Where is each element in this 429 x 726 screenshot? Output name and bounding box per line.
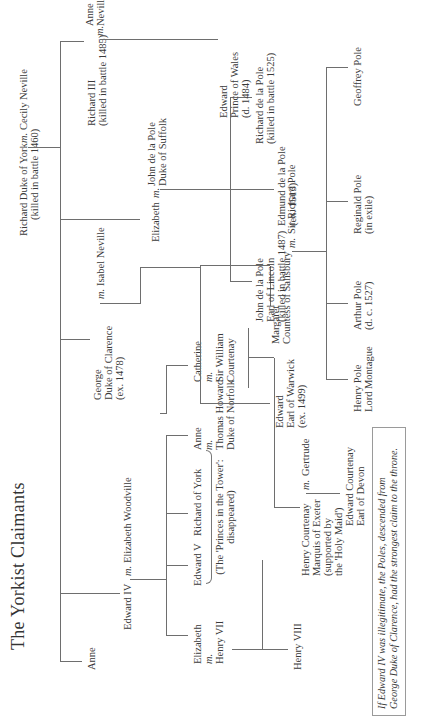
marriage-marker: m. [95,289,106,299]
title: Prince of Wales [229,52,240,118]
connector [60,219,140,220]
connector [60,661,82,662]
marriage-marker: m. [203,333,214,382]
connector [60,41,84,42]
brace [206,450,212,584]
connector [262,649,288,650]
name: Arthur Pole [352,281,363,330]
connector [326,303,348,304]
title: Lord Montague [363,346,374,412]
person-edward-courtenay: Edward Courtenay Earl of Devon [344,447,366,526]
person-john-duke-of-suffolk: John de la Pole Duke of Suffolk [146,118,168,186]
note: (ex. 1513) [287,146,298,226]
person-george-duke-of-clarence: George Duke of Clarence (ex. 1478) [92,326,125,400]
name: Edmund de la Pole [276,146,287,226]
name: Henry Pole [352,346,363,412]
connector [248,357,274,358]
person-anne-howard: Anne m. Thomas Howard Duke of Norfolk [192,380,236,450]
note: (d. 1484) [240,52,251,118]
note-line: (The 'Princes in the Tower': [214,452,225,582]
connector [326,68,327,380]
spouse-title: Duke of Norfolk [225,380,236,450]
connector [140,267,200,268]
name: Richard de la Pole [254,53,265,144]
person-richard-duke-of-york: Richard Duke of York (killed in battle 1… [18,129,40,236]
connector [232,649,262,650]
person-elizabeth-woodville: Elizabeth Woodville [122,477,133,563]
marriage-marker: m. [300,480,311,490]
connector [306,493,340,494]
spouse: Henry VII [214,621,225,664]
connector [292,251,326,252]
connector [230,98,231,282]
connector [130,579,166,580]
princes-in-tower-note: (The 'Princes in the Tower': disappeared… [214,452,236,582]
person-geoffrey-pole: Geoffrey Pole [352,47,363,106]
connector [100,303,140,304]
connector [60,339,90,340]
note-line: disappeared) [225,452,236,582]
connector [200,266,201,404]
note: (d. c. 1527) [363,281,374,330]
marriage-marker: m. [122,566,133,576]
person-elizabeth-york: Elizabeth [150,202,161,242]
marriage-marker: m. [203,621,214,664]
connector [230,189,274,190]
footnote-line: If Edward IV was illegitimate, the Poles… [376,434,388,709]
person-edmund-de-la-pole: Edmund de la Pole (ex. 1513) [276,146,298,226]
person-elizabeth-of-york: Elizabeth m. Henry VII [192,621,225,664]
connector [140,268,141,304]
note: (killed in battle 1460) [29,129,40,236]
title: Earl of Lincoln [265,231,276,322]
connector [60,593,120,594]
person-gertrude: Gertrude [300,439,311,476]
connector [28,147,60,148]
title: Earl of Devon [355,447,366,526]
connector [326,67,348,68]
connector [230,281,252,282]
connector [166,435,188,436]
connector [326,201,348,202]
connector [166,436,167,636]
connector [166,565,188,566]
person-isabel-neville: Isabel Neville [95,227,106,286]
spouse-surname: Courtenay [225,333,236,382]
marriage-marker: m. [203,380,214,450]
footnote-box: If Edward IV was illegitimate, the Poles… [372,427,406,716]
connector [100,39,218,40]
name: George [92,326,103,400]
person-henry-courtenay: Henry Courtenay Marquis of Exeter (suppo… [300,500,344,576]
name: John de la Pole [254,231,265,322]
person-richard-de-la-pole: Richard de la Pole (killed in battle 152… [254,53,276,144]
note: (killed in battle 1485) [97,35,108,126]
person-henry-pole: Henry Pole Lord Montague [352,346,374,412]
person-richard-iii: Richard III (killed in battle 1485) [86,35,108,126]
connector [60,42,61,662]
person-edward-earl-of-warwick: Edward Earl of Warwick (ex. 1499) [274,359,307,428]
name: Anne [192,380,203,450]
person-reginald-pole: Reginald Pole (in exile) [352,175,374,234]
footnote-line: George Duke of Clarence, had the stronge… [388,434,400,709]
name: Reginald Pole [352,175,363,234]
person-arthur-pole: Arthur Pole (d. c. 1527) [352,281,374,330]
connector [200,403,270,404]
name: John de la Pole [146,118,157,186]
connector [160,413,167,414]
title: Earl of Warwick [285,359,296,428]
diagram-title: The Yorkist Claimants [8,482,29,650]
marriage-marker: m. [18,133,29,143]
connector [326,379,348,380]
spouse: Sir William [214,333,225,382]
name: Catherine [192,333,203,382]
person-henry-viii: Henry VIII [292,623,303,670]
note-line: the 'Holy Maid') [333,500,344,576]
note: (ex. 1478) [114,326,125,400]
connector [274,507,300,508]
connector [166,366,167,414]
connector [166,635,188,636]
marriage-marker: m. [286,238,297,248]
title: Duke of Clarence [103,326,114,400]
name: Edward [218,52,229,118]
note: (killed in battle 1525) [265,53,276,144]
name: Elizabeth [192,621,203,664]
